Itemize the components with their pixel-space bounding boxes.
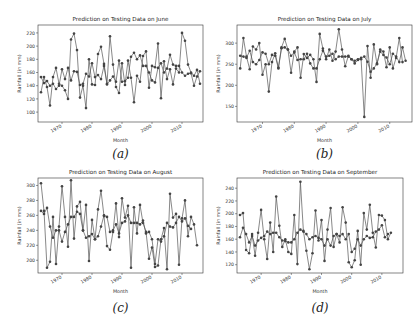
data-point-predicted — [382, 54, 385, 57]
data-point-predicted — [85, 73, 88, 76]
data-point-actual — [79, 96, 82, 99]
data-point-predicted — [145, 65, 148, 68]
data-point-actual — [172, 83, 175, 86]
data-point-predicted — [100, 78, 103, 81]
data-point-predicted — [181, 220, 184, 223]
data-point-predicted — [121, 80, 124, 83]
data-point-predicted — [392, 52, 395, 55]
data-point-actual — [148, 86, 151, 89]
data-point-predicted — [379, 50, 382, 53]
series-line-predicted — [41, 53, 200, 89]
panel-june: Prediction on Testing Data on June100120… — [17, 16, 203, 161]
data-point-predicted — [64, 78, 67, 81]
data-point-actual — [239, 67, 242, 70]
data-point-actual — [293, 214, 296, 217]
data-point-actual — [64, 216, 67, 219]
chart-title: Prediction on Testing Data on June — [73, 16, 169, 23]
data-point-predicted — [100, 225, 103, 228]
data-point-actual — [344, 65, 347, 68]
data-point-predicted — [145, 232, 148, 235]
data-point-predicted — [369, 71, 372, 74]
data-point-actual — [326, 228, 329, 231]
x-tick-label: 1970 — [250, 124, 263, 134]
series-line-actual — [41, 180, 197, 269]
x-tick-label: 2000 — [346, 124, 359, 134]
x-tick-label: 2000 — [140, 124, 153, 134]
data-point-predicted — [46, 207, 49, 210]
data-point-actual — [363, 212, 366, 215]
data-point-actual — [49, 104, 52, 107]
data-point-actual — [178, 264, 181, 267]
data-point-predicted — [366, 60, 369, 63]
data-point-actual — [245, 249, 248, 252]
data-point-actual — [384, 219, 387, 222]
data-point-predicted — [130, 222, 133, 225]
data-point-actual — [154, 266, 157, 269]
y-tick-label: 160 — [225, 237, 234, 242]
data-point-actual — [61, 185, 64, 188]
data-point-predicted — [293, 51, 296, 54]
data-point-actual — [40, 91, 43, 94]
data-point-predicted — [287, 48, 290, 51]
data-point-actual — [139, 80, 142, 83]
data-point-actual — [58, 225, 61, 228]
data-point-actual — [290, 253, 293, 256]
data-point-predicted — [350, 251, 353, 254]
data-point-actual — [52, 76, 55, 79]
x-tick-label: 2010 — [378, 124, 391, 134]
data-point-predicted — [290, 55, 293, 58]
data-point-predicted — [139, 54, 142, 57]
panel-caption: (b) — [316, 147, 333, 161]
data-point-actual — [49, 261, 52, 264]
data-point-actual — [88, 260, 91, 263]
data-point-predicted — [388, 63, 391, 66]
data-point-predicted — [277, 67, 280, 70]
data-point-predicted — [106, 216, 109, 219]
y-tick-label: 240 — [225, 186, 234, 191]
data-point-actual — [94, 84, 97, 87]
data-point-predicted — [67, 223, 70, 226]
data-point-actual — [269, 221, 272, 224]
data-point-predicted — [239, 55, 242, 58]
data-point-predicted — [76, 210, 79, 213]
data-point-predicted — [252, 61, 255, 64]
data-point-actual — [290, 71, 293, 74]
data-point-actual — [242, 37, 245, 40]
series-line-actual — [240, 182, 391, 269]
data-point-predicted — [268, 63, 271, 66]
data-point-predicted — [296, 232, 299, 235]
data-point-actual — [252, 45, 255, 48]
y-tick-label: 220 — [26, 31, 35, 36]
data-point-predicted — [296, 59, 299, 62]
y-tick-label: 260 — [26, 213, 35, 218]
y-tick-label: 220 — [225, 199, 234, 204]
y-tick-label: 120 — [225, 262, 234, 267]
data-point-actual — [332, 246, 335, 249]
data-point-actual — [248, 68, 251, 71]
data-point-predicted — [308, 238, 311, 241]
data-point-predicted — [109, 231, 112, 234]
data-point-actual — [130, 77, 133, 80]
data-point-actual — [40, 182, 43, 185]
data-point-actual — [187, 63, 190, 66]
data-point-predicted — [384, 236, 387, 239]
data-point-predicted — [190, 228, 193, 231]
data-point-predicted — [242, 55, 245, 58]
data-point-actual — [328, 48, 331, 51]
x-tick-label: 2010 — [370, 275, 383, 285]
data-point-predicted — [284, 240, 287, 243]
data-point-actual — [392, 67, 395, 70]
data-point-predicted — [130, 55, 133, 58]
data-point-actual — [341, 48, 344, 51]
data-point-predicted — [97, 235, 100, 238]
data-point-actual — [303, 53, 306, 56]
data-point-predicted — [94, 238, 97, 241]
x-tick-label: 2000 — [340, 275, 353, 285]
data-point-actual — [266, 258, 269, 261]
data-point-predicted — [121, 222, 124, 225]
data-point-predicted — [272, 232, 275, 235]
chart-title: Prediction on Testing Data on July — [278, 16, 372, 23]
data-point-actual — [350, 266, 353, 269]
data-point-predicted — [326, 238, 329, 241]
data-point-predicted — [88, 75, 91, 78]
